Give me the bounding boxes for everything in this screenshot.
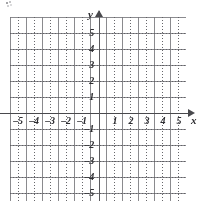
x-tick-label-3: 3 [145,116,150,126]
y-tick-label-5: 5 [84,28,94,38]
x-tick-label-1: 1 [113,116,118,126]
coordinate-plane-figure: –5 –4 –3 –2 –1 1 2 3 4 5 5 4 3 2 1 –1 –2… [0,0,206,208]
y-axis-label: y [88,8,93,20]
y-tick-label--4: –4 [80,172,94,182]
y-tick-label--1: –1 [80,124,94,134]
x-axis-label: x [191,114,197,126]
y-tick-label-4: 4 [84,44,94,54]
x-tick-label-4: 4 [161,116,166,126]
scan-speck-artifact [5,1,12,8]
y-tick-label--5: –5 [80,188,94,198]
y-tick-label-1: 1 [84,92,94,102]
x-tick-label--5: –5 [13,116,23,126]
y-tick-label--2: –2 [80,140,94,150]
y-axis-arrow-icon [95,10,103,17]
y-axis-line [99,11,100,201]
x-tick-label-5: 5 [177,116,182,126]
y-tick-label-2: 2 [84,76,94,86]
x-tick-label--2: –2 [61,116,71,126]
x-tick-label-2: 2 [129,116,134,126]
x-axis-line [0,113,190,114]
x-tick-label--4: –4 [29,116,39,126]
x-tick-label--3: –3 [45,116,55,126]
y-tick-label--3: –3 [80,156,94,166]
y-tick-label-3: 3 [84,60,94,70]
